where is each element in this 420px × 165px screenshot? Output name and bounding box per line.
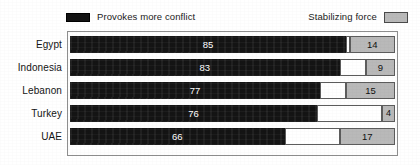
bar-row: UAE6617 (0, 128, 420, 145)
bar-value-stabilizing: 9 (378, 63, 383, 73)
bar-track: 764 (70, 105, 395, 122)
bar-row-label: Indonesia (0, 63, 62, 73)
dark-swatch-icon (66, 13, 90, 22)
bar-track: 8514 (70, 36, 395, 53)
bar-segment-conflict: 76 (70, 105, 317, 122)
bar-row: Egypt8514 (0, 36, 420, 53)
bar-row: Lebanon7715 (0, 82, 420, 99)
bar-segment-stabilizing: 15 (346, 82, 395, 99)
bar-segment-stabilizing: 4 (382, 105, 395, 122)
legend-label-stabilizing-force: Stabilizing force (308, 12, 377, 22)
bar-value-conflict: 76 (188, 109, 199, 119)
bar-segment-stabilizing: 17 (340, 128, 395, 145)
bar-row-label: Lebanon (0, 86, 62, 96)
bar-value-stabilizing: 15 (365, 86, 376, 96)
bar-segment-conflict: 85 (70, 36, 346, 53)
bar-track: 7715 (70, 82, 395, 99)
bar-segment-conflict: 83 (70, 59, 340, 76)
bar-value-conflict: 85 (203, 40, 214, 50)
bar-row-label: Turkey (0, 109, 62, 119)
bar-row-label: Egypt (0, 40, 62, 50)
bar-segment-remainder (320, 82, 346, 99)
bar-segment-stabilizing: 9 (366, 59, 395, 76)
bar-value-conflict: 66 (172, 132, 183, 142)
bar-segment-remainder (285, 128, 340, 145)
chart-figure: Provokes more conflict Stabilizing force… (0, 0, 420, 165)
bar-track: 6617 (70, 128, 395, 145)
legend-item-provokes-more-conflict: Provokes more conflict (66, 9, 195, 25)
gray-swatch-icon (384, 12, 408, 23)
bar-row: Turkey764 (0, 105, 420, 122)
bar-track: 839 (70, 59, 395, 76)
bar-value-stabilizing: 14 (367, 40, 378, 50)
bar-value-stabilizing: 17 (362, 132, 373, 142)
bar-row: Indonesia839 (0, 59, 420, 76)
bar-segment-conflict: 66 (70, 128, 285, 145)
bar-segment-conflict: 77 (70, 82, 320, 99)
bar-segment-stabilizing: 14 (350, 36, 396, 53)
bar-segment-remainder (317, 105, 382, 122)
bar-row-label: UAE (0, 132, 62, 142)
bar-value-conflict: 77 (190, 86, 201, 96)
legend-label-provokes-more-conflict: Provokes more conflict (97, 12, 195, 22)
bar-value-stabilizing: 4 (386, 109, 391, 118)
legend-item-stabilizing-force: Stabilizing force (308, 9, 408, 25)
bar-value-conflict: 83 (200, 63, 211, 73)
bar-rows: Egypt8514Indonesia839Lebanon7715Turkey76… (0, 31, 420, 156)
bar-segment-remainder (340, 59, 366, 76)
